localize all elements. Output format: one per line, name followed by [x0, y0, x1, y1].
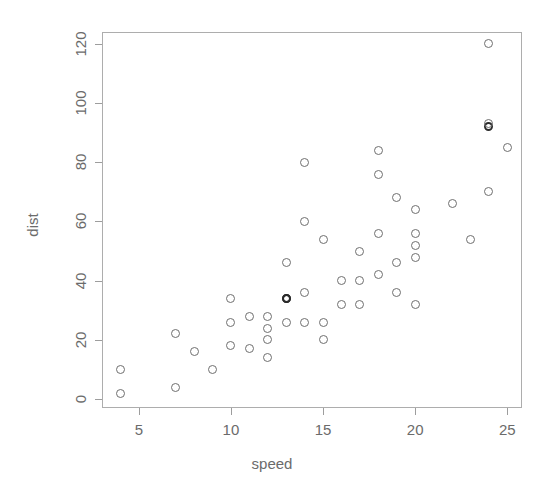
y-axis-title: dist — [24, 213, 41, 236]
y-tick-mark — [95, 221, 102, 222]
data-point — [263, 324, 272, 333]
x-tick-label: 25 — [499, 421, 516, 438]
data-point — [411, 300, 420, 309]
y-tick-mark — [95, 340, 102, 341]
x-tick-mark — [231, 408, 232, 415]
data-point — [374, 229, 383, 238]
data-point — [374, 146, 383, 155]
data-point — [116, 389, 125, 398]
scatter-plot: 510152025 020406080100120 speed dist — [0, 0, 544, 504]
data-point — [319, 318, 328, 327]
y-tick-mark — [95, 44, 102, 45]
y-tick-mark — [95, 281, 102, 282]
data-point — [282, 318, 291, 327]
data-point — [337, 300, 346, 309]
y-tick-label: 20 — [72, 332, 89, 349]
data-point — [355, 247, 364, 256]
y-tick-label: 80 — [72, 154, 89, 171]
x-tick-mark — [507, 408, 508, 415]
x-tick-label: 5 — [135, 421, 143, 438]
data-point — [282, 294, 291, 303]
y-tick-label: 40 — [72, 272, 89, 289]
x-tick-label: 10 — [223, 421, 240, 438]
data-point — [448, 199, 457, 208]
y-tick-label: 0 — [72, 395, 89, 403]
data-point — [319, 235, 328, 244]
data-point — [411, 205, 420, 214]
y-tick-label: 60 — [72, 213, 89, 230]
data-point — [116, 365, 125, 374]
y-tick-label: 120 — [72, 31, 89, 56]
data-point — [466, 235, 475, 244]
data-point — [411, 241, 420, 250]
y-tick-label: 100 — [72, 91, 89, 116]
data-point — [263, 312, 272, 321]
data-point — [411, 253, 420, 262]
plot-frame — [102, 32, 522, 408]
data-point — [190, 347, 199, 356]
data-point — [245, 312, 254, 321]
data-point — [300, 318, 309, 327]
data-point — [374, 170, 383, 179]
x-tick-mark — [139, 408, 140, 415]
data-point — [171, 383, 180, 392]
x-axis-title: speed — [0, 455, 544, 472]
x-tick-mark — [323, 408, 324, 415]
x-tick-label: 20 — [407, 421, 424, 438]
x-tick-label: 15 — [315, 421, 332, 438]
y-tick-mark — [95, 162, 102, 163]
data-point — [208, 365, 217, 374]
data-point — [503, 143, 512, 152]
x-tick-mark — [415, 408, 416, 415]
data-point — [300, 158, 309, 167]
y-tick-mark — [95, 103, 102, 104]
data-point — [411, 229, 420, 238]
y-tick-mark — [95, 399, 102, 400]
data-point — [319, 335, 328, 344]
